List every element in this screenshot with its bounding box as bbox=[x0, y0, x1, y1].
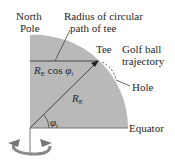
radius-desc-line2: path of tee bbox=[64, 22, 143, 34]
latitude-angle-label: φi bbox=[50, 116, 58, 132]
hole-label: Hole bbox=[132, 81, 153, 93]
radius-desc-line1: Radius of circular bbox=[64, 10, 143, 22]
north-pole-line1: North bbox=[16, 10, 42, 22]
equator-label: Equator bbox=[129, 122, 164, 134]
north-pole-line2: Pole bbox=[16, 22, 42, 34]
phi-sub: i bbox=[56, 122, 58, 130]
golf-line2: trajectory bbox=[122, 55, 164, 67]
hole-leader-line bbox=[116, 80, 130, 86]
earth-radius-label: RE bbox=[72, 92, 83, 108]
formula-r: R bbox=[34, 64, 41, 76]
tee-label: Tee bbox=[96, 43, 112, 55]
north-pole-label: North Pole bbox=[16, 10, 42, 34]
golf-trajectory-label: Golf ball trajectory bbox=[122, 43, 164, 67]
radius-description-label: Radius of circular path of tee bbox=[64, 10, 143, 34]
re-r: R bbox=[72, 92, 79, 104]
re-sub: E bbox=[79, 98, 83, 106]
tee-radius-formula: RE cos φi bbox=[34, 64, 73, 80]
golf-line1: Golf ball bbox=[122, 43, 164, 55]
formula-cos: cos bbox=[45, 64, 65, 76]
formula-phi-sub: i bbox=[71, 70, 73, 78]
